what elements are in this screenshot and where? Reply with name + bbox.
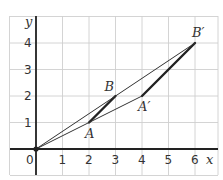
coordinate-grid-figure: 01234561234xyABA′B′ — [0, 0, 223, 180]
grid — [10, 16, 219, 176]
y-tick-label: 3 — [24, 63, 32, 77]
y-axis-label: y — [24, 14, 33, 29]
point-label-b: B — [104, 79, 115, 94]
segment-ab — [89, 96, 116, 123]
shapes — [33, 43, 195, 152]
point-label-b2: B′ — [191, 25, 205, 40]
x-tick-label: 6 — [191, 153, 199, 167]
x-axis-label: x — [206, 152, 214, 167]
x-tick-label: 0 — [26, 153, 34, 167]
x-tick-label: 4 — [138, 153, 146, 167]
origin-point — [33, 146, 38, 151]
y-tick-label: 1 — [24, 116, 32, 130]
x-tick-label: 2 — [85, 153, 93, 167]
x-tick-label: 1 — [59, 153, 67, 167]
y-tick-label: 2 — [24, 89, 32, 103]
labels: 01234561234xyABA′B′ — [24, 14, 214, 167]
x-tick-label: 3 — [112, 153, 120, 167]
y-tick-label: 4 — [24, 36, 32, 50]
axes — [10, 16, 218, 175]
point-label-a: A — [84, 126, 94, 141]
point-label-a2: A′ — [137, 99, 150, 114]
x-tick-label: 5 — [165, 153, 173, 167]
